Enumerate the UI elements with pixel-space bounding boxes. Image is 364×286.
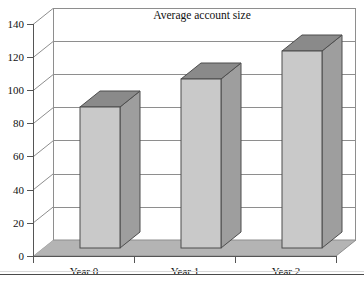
ytick-label-140: 140: [0, 19, 24, 30]
ytick-label-0: 0: [0, 251, 24, 262]
bar-front-face: [282, 51, 322, 248]
ytick-label-120: 120: [0, 52, 24, 63]
bar-side-face: [322, 35, 342, 248]
bar-year-0: [80, 91, 140, 248]
ytick-label-60: 60: [0, 151, 24, 162]
bar-year-2: [282, 35, 342, 248]
bottom-rule-dark: [0, 274, 364, 275]
bar-side-face: [120, 91, 140, 248]
value-axis-tick-group: [27, 25, 33, 257]
bar-year-1: [181, 63, 241, 248]
bar-front-face: [181, 79, 221, 248]
ytick-label-20: 20: [0, 218, 24, 229]
chart-plot-area: [0, 0, 364, 286]
ytick-label-80: 80: [0, 118, 24, 129]
category-axis-tick-group: [34, 256, 337, 263]
bar-front-face: [80, 107, 120, 248]
bottom-rule-light: [0, 271, 364, 272]
left-side-plane: [33, 8, 53, 256]
ytick-label-100: 100: [0, 85, 24, 96]
chart-figure: Average account size 140 120 100 80 60 4…: [0, 0, 364, 286]
bar-side-face: [221, 63, 241, 248]
ytick-label-40: 40: [0, 185, 24, 196]
chart-title: Average account size: [132, 9, 272, 22]
